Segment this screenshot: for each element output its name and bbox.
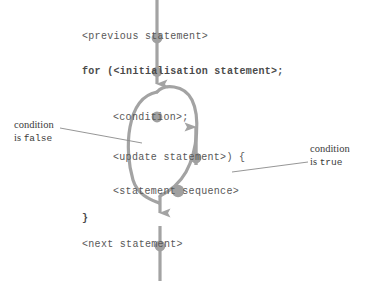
annotation-true-value: true	[320, 157, 343, 168]
code-line-next-statement: <next statement>	[82, 239, 183, 250]
annotation-false-line1: condition	[14, 119, 54, 132]
code-line-for-initialisation: for (<initialisation statement>;	[82, 66, 284, 77]
annotation-true-line2: is true	[310, 156, 350, 170]
code-line-statement-sequence: <statement sequence>	[113, 186, 239, 197]
annotation-condition-false: condition is false	[14, 119, 54, 145]
code-line-closing-brace: }	[82, 213, 88, 224]
loop-right-branch	[157, 87, 197, 196]
annotation-condition-true: condition is true	[310, 143, 350, 169]
annotation-false-value: false	[24, 133, 53, 144]
code-line-condition: <condition>;	[113, 112, 189, 123]
annotation-false-prefix: is	[14, 132, 24, 143]
diagram-canvas: <previous statement> for (<initialisatio…	[0, 0, 378, 281]
annotation-leader-lines	[60, 128, 308, 172]
annotation-true-line1: condition	[310, 143, 350, 156]
annotation-true-prefix: is	[310, 156, 320, 167]
code-line-update-statement: <update statement>) {	[113, 152, 245, 163]
annotation-false-line2: is false	[14, 132, 54, 146]
flow-arrows-graphic	[0, 0, 378, 281]
true-leader-line	[232, 162, 308, 172]
code-line-previous-statement: <previous statement>	[82, 31, 208, 42]
true-branch-curve	[157, 87, 197, 196]
